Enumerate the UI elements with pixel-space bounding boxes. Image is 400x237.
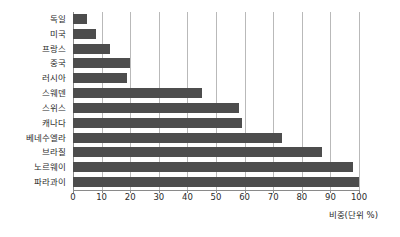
x-axis-tick-label: 0 [70, 192, 75, 202]
x-axis-tick-mark [330, 190, 331, 193]
plot-area [73, 12, 359, 190]
y-axis-label: 브라질 [0, 145, 70, 160]
x-axis-tick-mark [273, 190, 274, 193]
y-axis-label: 독일 [0, 12, 70, 27]
bar [73, 14, 87, 24]
x-axis-tick-label: 30 [153, 192, 164, 202]
bar-row [73, 71, 359, 86]
bar [73, 73, 127, 83]
bar-row [73, 12, 359, 27]
x-axis-tick-label: 50 [211, 192, 222, 202]
bar-series [73, 12, 359, 190]
x-axis-tick-label: 100 [351, 192, 367, 202]
y-axis-label: 러시아 [0, 71, 70, 86]
x-axis-tick-mark [302, 190, 303, 193]
bar [73, 177, 359, 187]
bar [73, 29, 96, 39]
y-axis-label: 미국 [0, 27, 70, 42]
x-axis-tick-mark [102, 190, 103, 193]
bar-row [73, 56, 359, 71]
y-axis-label: 스웨덴 [0, 86, 70, 101]
x-axis-tick-labels: 0102030405060708090100 [0, 192, 400, 206]
x-axis-title: 비중(단위 %) [0, 208, 378, 220]
bar-row [73, 175, 359, 190]
bar [73, 103, 239, 113]
bar [73, 44, 110, 54]
x-axis-tick-label: 70 [268, 192, 279, 202]
x-axis-tick-mark [73, 190, 74, 193]
bar-chart: 독일미국프랑스중국러시아스웨덴스위스캐나다베네수엘라브라질노르웨이파라과이 01… [0, 0, 400, 237]
bar [73, 58, 130, 68]
y-axis-label: 베네수엘라 [0, 131, 70, 146]
x-axis-tick-label: 40 [182, 192, 193, 202]
x-axis-tick-label: 90 [325, 192, 336, 202]
y-axis-label: 캐나다 [0, 116, 70, 131]
bar [73, 162, 353, 172]
x-axis-tick-label: 60 [239, 192, 250, 202]
y-axis-label: 노르웨이 [0, 160, 70, 175]
bar [73, 118, 242, 128]
bar-row [73, 160, 359, 175]
bar-row [73, 101, 359, 116]
bar [73, 147, 322, 157]
bar-row [73, 131, 359, 146]
y-axis-label: 스위스 [0, 101, 70, 116]
gridline-100 [359, 12, 360, 190]
x-axis-tick-mark [159, 190, 160, 193]
bar-row [73, 42, 359, 57]
bar [73, 88, 202, 98]
bar-row [73, 116, 359, 131]
y-axis-label: 중국 [0, 56, 70, 71]
x-axis-tick-label: 20 [125, 192, 136, 202]
y-axis-label: 파라과이 [0, 175, 70, 190]
x-axis-tick-label: 10 [96, 192, 107, 202]
bar-row [73, 86, 359, 101]
y-axis-label: 프랑스 [0, 42, 70, 57]
bar [73, 133, 282, 143]
x-axis-tick-mark [187, 190, 188, 193]
x-axis-tick-mark [130, 190, 131, 193]
x-axis-tick-mark [245, 190, 246, 193]
bar-row [73, 145, 359, 160]
x-axis-tick-mark [359, 190, 360, 193]
x-axis-tick-mark [216, 190, 217, 193]
y-axis-category-labels: 독일미국프랑스중국러시아스웨덴스위스캐나다베네수엘라브라질노르웨이파라과이 [0, 12, 70, 190]
bar-row [73, 27, 359, 42]
x-axis-tick-label: 80 [296, 192, 307, 202]
